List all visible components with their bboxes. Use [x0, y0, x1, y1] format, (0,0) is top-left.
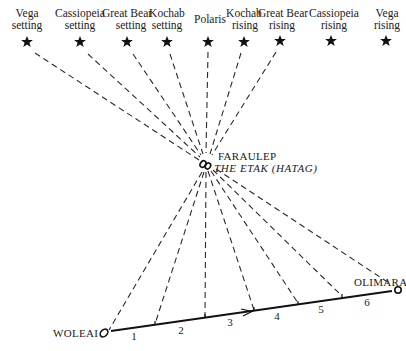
star-icon — [380, 35, 392, 46]
star-label-great-bear-rising: Great Bear — [258, 7, 308, 19]
star-sub-cassiopeia-rising: rising — [321, 19, 347, 32]
star-sub-kochab-rising: rising — [232, 19, 258, 32]
segment-number-5: 5 — [318, 303, 324, 315]
island-icon — [99, 328, 110, 339]
star-sub-vega-setting: setting — [12, 19, 43, 32]
etak-lines — [109, 169, 389, 330]
star-sub-great-bear-setting: setting — [116, 19, 147, 32]
segment-number-1: 1 — [131, 330, 137, 342]
star-icon — [274, 35, 286, 46]
segment-number-4: 4 — [274, 310, 280, 322]
star-icon — [202, 36, 214, 47]
star-icon — [238, 36, 250, 47]
woleai-label: WOLEAI — [53, 327, 98, 339]
star-sub-cassiopeia-setting: setting — [65, 19, 96, 32]
etak-navigation-diagram: Vega setting Cassiopeia setting Great Be… — [0, 0, 406, 351]
star-sub-great-bear-rising: rising — [269, 19, 295, 32]
faraulep-island: FARAULEP THE ETAK (HATAG) — [199, 150, 318, 175]
segment-number-3: 3 — [227, 316, 233, 328]
star-icon — [161, 36, 173, 47]
segment-numbers: 1 2 3 4 5 6 — [131, 296, 370, 342]
star-icon — [121, 36, 133, 47]
olimara-label: OLIMARA — [354, 276, 406, 288]
faraulep-label: FARAULEP — [218, 150, 276, 162]
segment-number-2: 2 — [178, 324, 184, 336]
star-label-great-bear-setting: Great Bear — [102, 7, 152, 19]
etak-label: THE ETAK (HATAG) — [214, 162, 318, 175]
star-label-kochab-rising: Kochab — [226, 7, 262, 19]
star-sub-kochab-setting: setting — [152, 19, 183, 32]
star-icon — [74, 36, 86, 47]
woleai-island: WOLEAI — [53, 327, 109, 339]
segment-number-6: 6 — [364, 296, 370, 308]
course-line — [111, 291, 392, 331]
star-icons — [21, 35, 392, 47]
star-label-kochab-setting: Kochab — [149, 7, 185, 19]
olimara-island: OLIMARA — [354, 276, 406, 293]
star-bearing-lines — [35, 52, 276, 160]
star-labels: Vega setting Cassiopeia setting Great Be… — [12, 7, 401, 32]
star-sub-vega-rising: rising — [374, 19, 400, 32]
star-label-polaris: Polaris — [194, 13, 226, 25]
star-icon — [325, 35, 337, 46]
star-icon — [21, 36, 33, 47]
